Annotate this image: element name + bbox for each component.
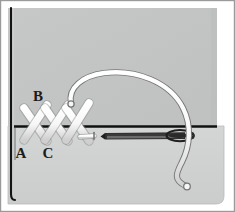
label-a: A bbox=[16, 145, 27, 161]
figure-canvas: B A C bbox=[0, 0, 235, 212]
thread-free-end bbox=[184, 183, 191, 190]
fabric-upper-right-shadow bbox=[211, 8, 217, 126]
cross-stitch-figure: B A C bbox=[0, 0, 235, 212]
label-b: B bbox=[33, 88, 43, 104]
label-c: C bbox=[43, 145, 54, 161]
thread-start-end bbox=[68, 101, 74, 107]
